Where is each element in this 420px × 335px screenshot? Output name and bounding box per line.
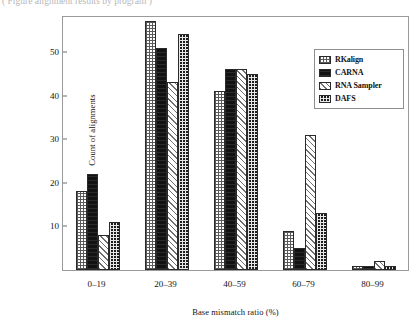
bar-rna-sampler[interactable] [98, 235, 109, 270]
bar-dafs[interactable] [178, 34, 189, 270]
y-axis-tick-label: 20 [50, 178, 59, 188]
figure-caption-strip: ( Figure alignment results by program ) [0, 0, 420, 13]
legend-item-carna[interactable]: CARNA [319, 66, 399, 79]
bar-carna[interactable] [87, 174, 98, 270]
legend-item-rkalign[interactable]: RKalign [319, 53, 399, 66]
legend-label: RKalign [335, 55, 363, 64]
legend-item-rna-sampler[interactable]: RNA Sampler [319, 79, 399, 92]
bar-group [132, 17, 201, 270]
bar-rkalign[interactable] [214, 91, 225, 270]
bar-rna-sampler[interactable] [305, 135, 316, 270]
x-axis-tick-label: 40–59 [223, 279, 246, 289]
bar-rkalign[interactable] [145, 21, 156, 270]
bar-dafs[interactable] [385, 266, 396, 270]
legend-label: RNA Sampler [335, 81, 382, 90]
legend-item-dafs[interactable]: DAFS [319, 92, 399, 105]
bar-dafs[interactable] [109, 222, 120, 270]
bar-carna[interactable] [363, 266, 374, 270]
bar-group [63, 17, 132, 270]
x-axis-tick-label: 80–99 [361, 279, 384, 289]
bar-dafs[interactable] [316, 213, 327, 270]
bar-carna[interactable] [294, 248, 305, 270]
bar-rkalign[interactable] [352, 266, 363, 270]
x-axis-tick-label: 60–79 [292, 279, 315, 289]
y-axis-tick-label: 40 [50, 91, 59, 101]
legend-swatch-icon [319, 95, 331, 103]
bar-rna-sampler[interactable] [236, 69, 247, 270]
bar-carna[interactable] [156, 48, 167, 270]
legend-swatch-icon [319, 56, 331, 64]
legend-label: DAFS [335, 94, 356, 103]
y-axis-tick-label: 30 [50, 134, 59, 144]
bar-group [201, 17, 270, 270]
bar-rna-sampler[interactable] [167, 82, 178, 270]
figure-caption-text: ( Figure alignment results by program ) [2, 0, 152, 8]
y-axis-tick-label: 50 [50, 47, 59, 57]
x-axis-tick-label: 0–19 [88, 279, 106, 289]
legend-swatch-icon [319, 69, 331, 77]
bar-dafs[interactable] [247, 74, 258, 270]
y-axis-tick-label: 10 [50, 221, 59, 231]
bar-rna-sampler[interactable] [374, 261, 385, 270]
bar-rkalign[interactable] [283, 231, 294, 270]
x-axis-title: Base mismatch ratio (%) [62, 307, 409, 317]
bar-carna[interactable] [225, 69, 236, 270]
bar-chart-figure: Count of alignments 1020304050 Base mism… [0, 13, 420, 335]
chart-legend: RKalignCARNARNA SamplerDAFS [314, 49, 404, 109]
legend-label: CARNA [335, 68, 363, 77]
bar-rkalign[interactable] [76, 191, 87, 270]
legend-swatch-icon [319, 82, 331, 90]
x-axis-tick-label: 20–39 [154, 279, 177, 289]
